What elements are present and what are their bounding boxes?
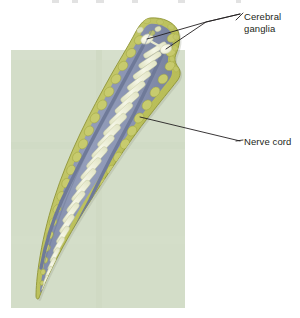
label-nerve-cord-line1: Nerve cord bbox=[244, 136, 291, 148]
planarian-nervous-system-figure bbox=[0, 0, 300, 318]
label-cerebral-ganglia-line1: Cerebral bbox=[244, 11, 281, 23]
label-cerebral-ganglia-line2: ganglia bbox=[244, 23, 281, 35]
label-nerve-cord: Nerve cord bbox=[244, 136, 291, 148]
label-cerebral-ganglia: Cerebral ganglia bbox=[244, 11, 281, 34]
cropped-text-remnant bbox=[52, 0, 241, 3]
